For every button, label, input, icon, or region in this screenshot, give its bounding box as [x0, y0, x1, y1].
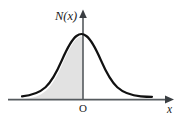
x-axis-label: x — [166, 103, 173, 115]
shaded-area-left-of-origin — [23, 37, 84, 100]
y-axis-label: N(x) — [54, 9, 77, 23]
figure-canvas: N(x) O x — [0, 0, 181, 118]
normal-distribution-figure: N(x) O x — [0, 0, 181, 118]
bell-curve-path — [22, 34, 152, 97]
origin-label: O — [79, 102, 87, 114]
y-axis-arrowhead — [79, 10, 87, 19]
